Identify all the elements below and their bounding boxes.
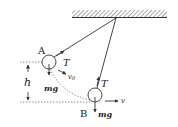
diagram-canvas: A T mg v0 h T B mg v bbox=[0, 0, 178, 127]
label-mg-B: mg bbox=[98, 109, 112, 119]
label-A: A bbox=[37, 45, 46, 56]
label-v: v bbox=[121, 97, 125, 105]
label-tension-A: T bbox=[63, 57, 71, 68]
label-B: B bbox=[80, 108, 87, 119]
label-mg-A: mg bbox=[44, 83, 58, 93]
pendulum-diagram: A T mg v0 h T B mg v bbox=[0, 0, 178, 127]
label-h: h bbox=[24, 76, 31, 89]
label-tension-B: T bbox=[101, 78, 109, 89]
label-v0: v0 bbox=[68, 73, 76, 81]
velocity-arrow-A bbox=[58, 70, 66, 74]
tension-arrow-A bbox=[56, 51, 64, 56]
ceiling bbox=[72, 10, 167, 18]
